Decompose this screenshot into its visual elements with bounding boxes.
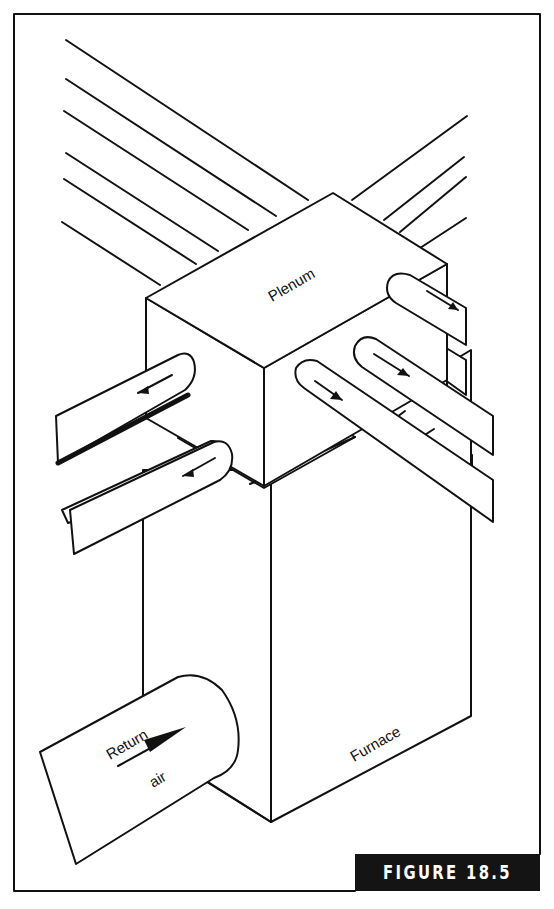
figure-caption: FIGURE 18.5 (375, 854, 519, 891)
hvac-diagram: Plenum Return air (0, 0, 554, 909)
